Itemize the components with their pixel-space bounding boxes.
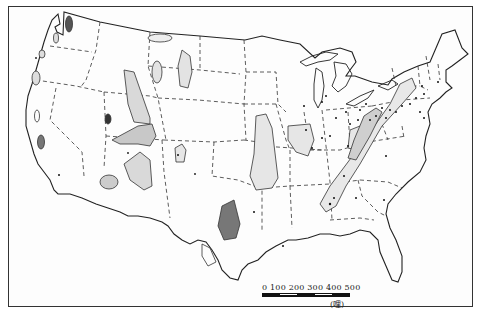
scale-tick: 200 [289, 283, 305, 292]
us-map [0, 0, 478, 317]
shaded-regions [32, 16, 416, 266]
scale-tick: 500 [345, 283, 361, 292]
lake-erie [346, 90, 374, 106]
scale-tick: 300 [307, 283, 323, 292]
scale-bar-graphic [262, 293, 350, 297]
scale-unit: (哩) [330, 298, 344, 309]
scale-tick: 400 [326, 283, 342, 292]
scale-tick: 0 [262, 283, 267, 292]
scale-labels: 0 100 200 300 400 500 [262, 283, 352, 292]
us-outline [26, 12, 468, 282]
lake-huron [332, 62, 352, 92]
scale-tick: 100 [270, 283, 286, 292]
scale-bar: 0 100 200 300 400 500 [262, 283, 352, 297]
lake-superior [300, 52, 338, 66]
